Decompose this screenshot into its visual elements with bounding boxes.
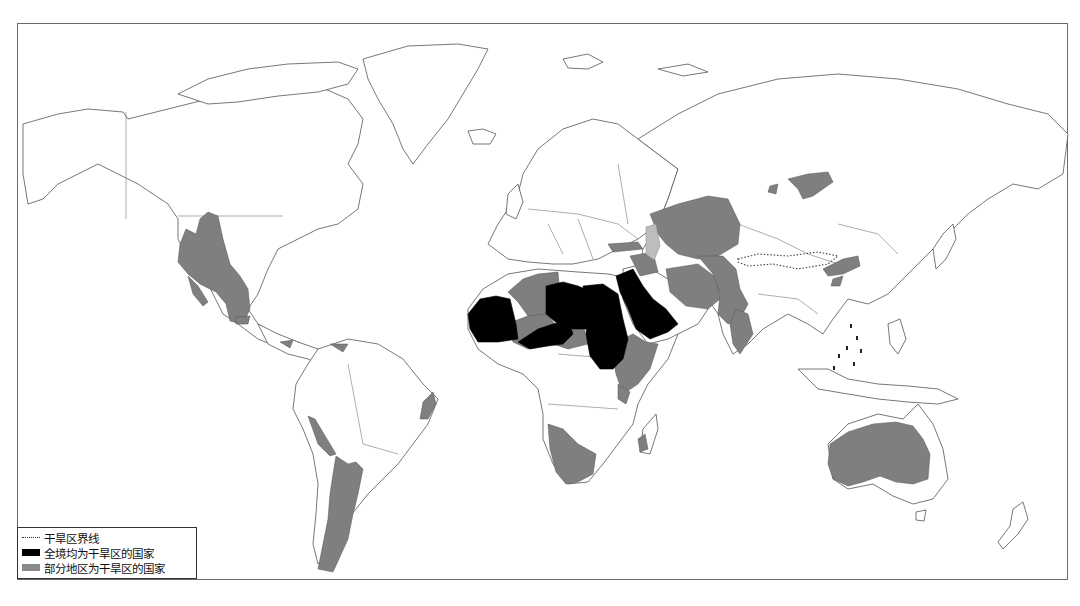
legend-label: 部分地区为干旱区的国家: [44, 560, 165, 576]
arid-mexico-south: [236, 316, 250, 324]
land-south-america: [293, 339, 438, 564]
land-north-america: [23, 84, 363, 354]
land-iceland: [468, 129, 496, 144]
world-map: [18, 24, 1069, 581]
legend: 干旱区界线 全境均为干旱区的国家 部分地区为干旱区的国家: [17, 527, 197, 579]
gray-swatch-icon: [22, 564, 40, 571]
land-svalbard: [563, 54, 603, 69]
arid-turkey-caucasus: [608, 242, 643, 252]
black-swatch-icon: [22, 549, 40, 556]
land-greenland: [363, 44, 488, 164]
land-philippines: [888, 319, 906, 354]
land-new-zealand: [998, 502, 1028, 549]
land-indonesia: [798, 369, 958, 404]
land-tasmania: [916, 510, 926, 521]
se-asia-marks: [833, 324, 862, 370]
legend-item-partial-arid: 部分地区为干旱区的国家: [22, 560, 196, 575]
legend-label: 全境均为干旱区的国家: [44, 545, 154, 561]
map-frame: [17, 23, 1068, 580]
legend-label: 干旱区界线: [44, 530, 99, 546]
land-novaya-zemlya: [658, 64, 708, 76]
legend-item-boundary-line: 干旱区界线: [22, 530, 196, 545]
dotted-line-icon: [22, 537, 40, 538]
legend-item-full-arid: 全境均为干旱区的国家: [22, 545, 196, 560]
